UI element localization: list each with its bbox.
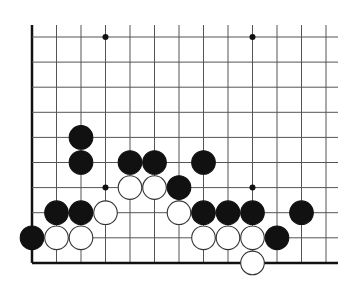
go-board [0, 0, 356, 289]
black-stone-icon [192, 201, 216, 225]
black-stone-icon [69, 151, 93, 175]
black-stone-icon [192, 151, 216, 175]
black-stone-icon [118, 151, 142, 175]
black-stone-icon [216, 201, 240, 225]
white-stone-icon [192, 226, 216, 250]
white-stone-icon [143, 176, 167, 200]
black-stone-icon [20, 226, 44, 250]
star-point-icon [250, 34, 256, 40]
black-stone-icon [69, 201, 93, 225]
black-stone-icon [265, 226, 289, 250]
white-stone-icon [216, 226, 240, 250]
white-stone-icon [118, 176, 142, 200]
stones [20, 126, 313, 275]
white-stone-icon [45, 226, 69, 250]
star-point-icon [103, 34, 109, 40]
black-stone-icon [167, 176, 191, 200]
black-stone-icon [241, 201, 265, 225]
black-stone-icon [69, 126, 93, 150]
black-stone-icon [45, 201, 69, 225]
go-board-diagram [0, 0, 356, 289]
white-stone-icon [94, 201, 118, 225]
black-stone-icon [290, 201, 314, 225]
star-point-icon [250, 185, 256, 191]
black-stone-icon [143, 151, 167, 175]
white-stone-icon [167, 201, 191, 225]
white-stone-icon [69, 226, 93, 250]
star-point-icon [103, 185, 109, 191]
white-stone-icon [241, 251, 265, 275]
white-stone-icon [241, 226, 265, 250]
